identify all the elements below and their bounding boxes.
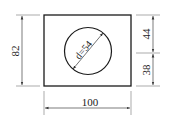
lower-segment-label: 38 xyxy=(140,64,152,76)
width-label: 100 xyxy=(82,96,99,108)
diameter-label: d=54 xyxy=(72,38,94,61)
technical-drawing: d=54 82 44 38 100 xyxy=(0,0,170,125)
upper-segment-label: 44 xyxy=(140,28,152,40)
height-label: 82 xyxy=(9,46,21,57)
